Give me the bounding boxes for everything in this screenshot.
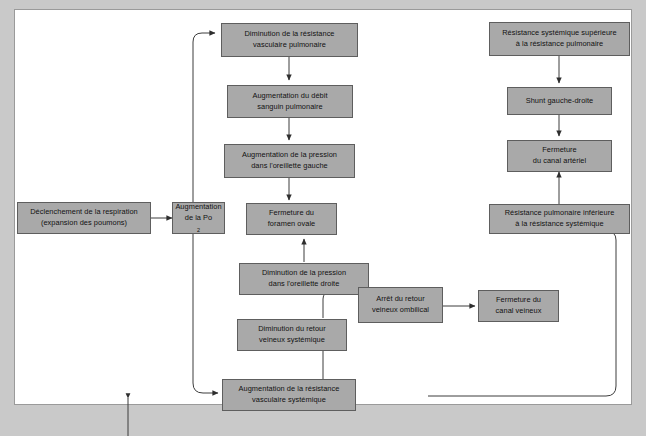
node-line-1: Diminution de la pression xyxy=(262,268,346,279)
node-arret-retour-veineux-ombilical[interactable]: Arrêt du retour veineux ombilical xyxy=(358,287,443,323)
node-line-1: Diminution du retour xyxy=(258,324,326,335)
node-diminution-retour-veineux-systemique[interactable]: Diminution du retour veineux systémique xyxy=(237,319,347,351)
node-line-1: Augmentation de la pression xyxy=(242,150,337,161)
node-line-1: Fermeture du xyxy=(268,208,315,219)
subscript-2: 2 xyxy=(197,227,200,233)
node-line-2: veineux ombilical xyxy=(372,305,429,316)
node-fermeture-canal-veineux[interactable]: Fermeture du canal veineux xyxy=(478,290,559,322)
node-line-2: sanguin pulmonaire xyxy=(252,102,327,113)
node-line-2: foramen ovale xyxy=(268,219,315,230)
node-line-1: Fermeture du xyxy=(496,295,542,306)
node-line-1: Déclenchement de la respiration xyxy=(30,207,138,218)
node-line-1: Augmentation du débit xyxy=(252,91,327,102)
node-line-1: Résistance systémique supérieure xyxy=(502,28,617,39)
node-line-2: à la résistance systémique xyxy=(505,219,615,230)
node-line-1: Augmentation xyxy=(175,202,221,213)
node-line-1: Arrêt du retour xyxy=(372,294,429,305)
node-fermeture-foramen-ovale[interactable]: Fermeture du foramen ovale xyxy=(246,203,337,235)
node-line-2: du canal artériel xyxy=(533,156,586,167)
node-augmentation-resistance-vasculaire-systemique[interactable]: Augmentation de la résistance vasculaire… xyxy=(222,379,356,411)
node-line-2: dans l'oreillette gauche xyxy=(242,161,337,172)
node-line-1: Shunt gauche-droite xyxy=(526,96,594,107)
node-line-2: canal veineux xyxy=(496,306,542,317)
node-augmentation-pression-oreillette-gauche[interactable]: Augmentation de la pression dans l'oreil… xyxy=(224,144,355,178)
node-line-2: dans l'oreillette droite xyxy=(262,279,346,290)
node-line-2: (expansion des poumons) xyxy=(30,218,138,229)
node-line-2: veineux systémique xyxy=(258,335,326,346)
node-resistance-systemique-superieure[interactable]: Résistance systémique supérieure à la ré… xyxy=(489,22,630,56)
node-augmentation-debit-sanguin-pulmonaire[interactable]: Augmentation du débit sanguin pulmonaire xyxy=(227,85,353,118)
node-line-1: Fermeture xyxy=(533,145,586,156)
node-line-2: de la Po2 xyxy=(175,213,221,234)
node-diminution-resistance-vasculaire-pulmonaire[interactable]: Diminution de la résistance vasculaire p… xyxy=(221,23,358,57)
node-declenchement-respiration[interactable]: Déclenchement de la respiration (expansi… xyxy=(17,202,151,234)
node-line-1: Résistance pulmonaire inférieure xyxy=(505,208,615,219)
node-line-1: Augmentation de la résistance xyxy=(239,384,340,395)
node-diminution-pression-oreillette-droite[interactable]: Diminution de la pression dans l'oreille… xyxy=(239,263,369,295)
node-resistance-pulmonaire-inferieure[interactable]: Résistance pulmonaire inférieure à la ré… xyxy=(489,204,630,234)
node-line-2: vasculaire systémique xyxy=(239,395,340,406)
node-shunt-gauche-droite[interactable]: Shunt gauche-droite xyxy=(507,87,612,115)
node-line-1: Diminution de la résistance xyxy=(244,29,334,40)
node-line-2: à la résistance pulmonaire xyxy=(502,39,617,50)
node-line-2: vasculaire pulmonaire xyxy=(244,40,334,51)
diagram-canvas: Déclenchement de la respiration (expansi… xyxy=(0,0,646,436)
node-augmentation-po2[interactable]: Augmentation de la Po2 xyxy=(172,202,225,234)
node-fermeture-canal-arteriel[interactable]: Fermeture du canal artériel xyxy=(507,140,612,172)
